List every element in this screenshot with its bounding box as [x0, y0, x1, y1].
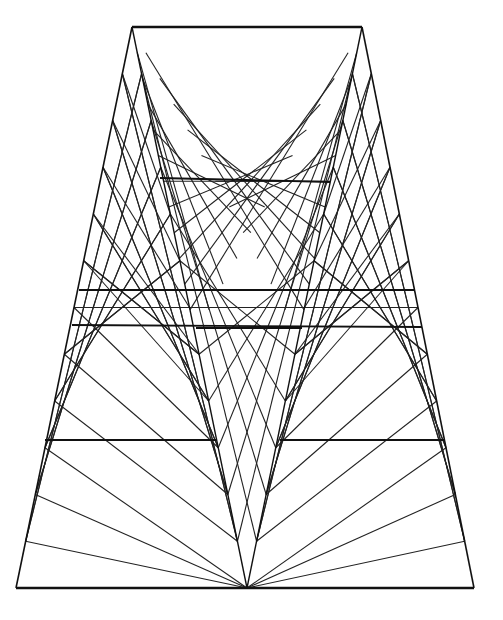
string-art-figure: [0, 0, 503, 620]
drawing-canvas: String-art geometric line drawing: [0, 0, 503, 620]
